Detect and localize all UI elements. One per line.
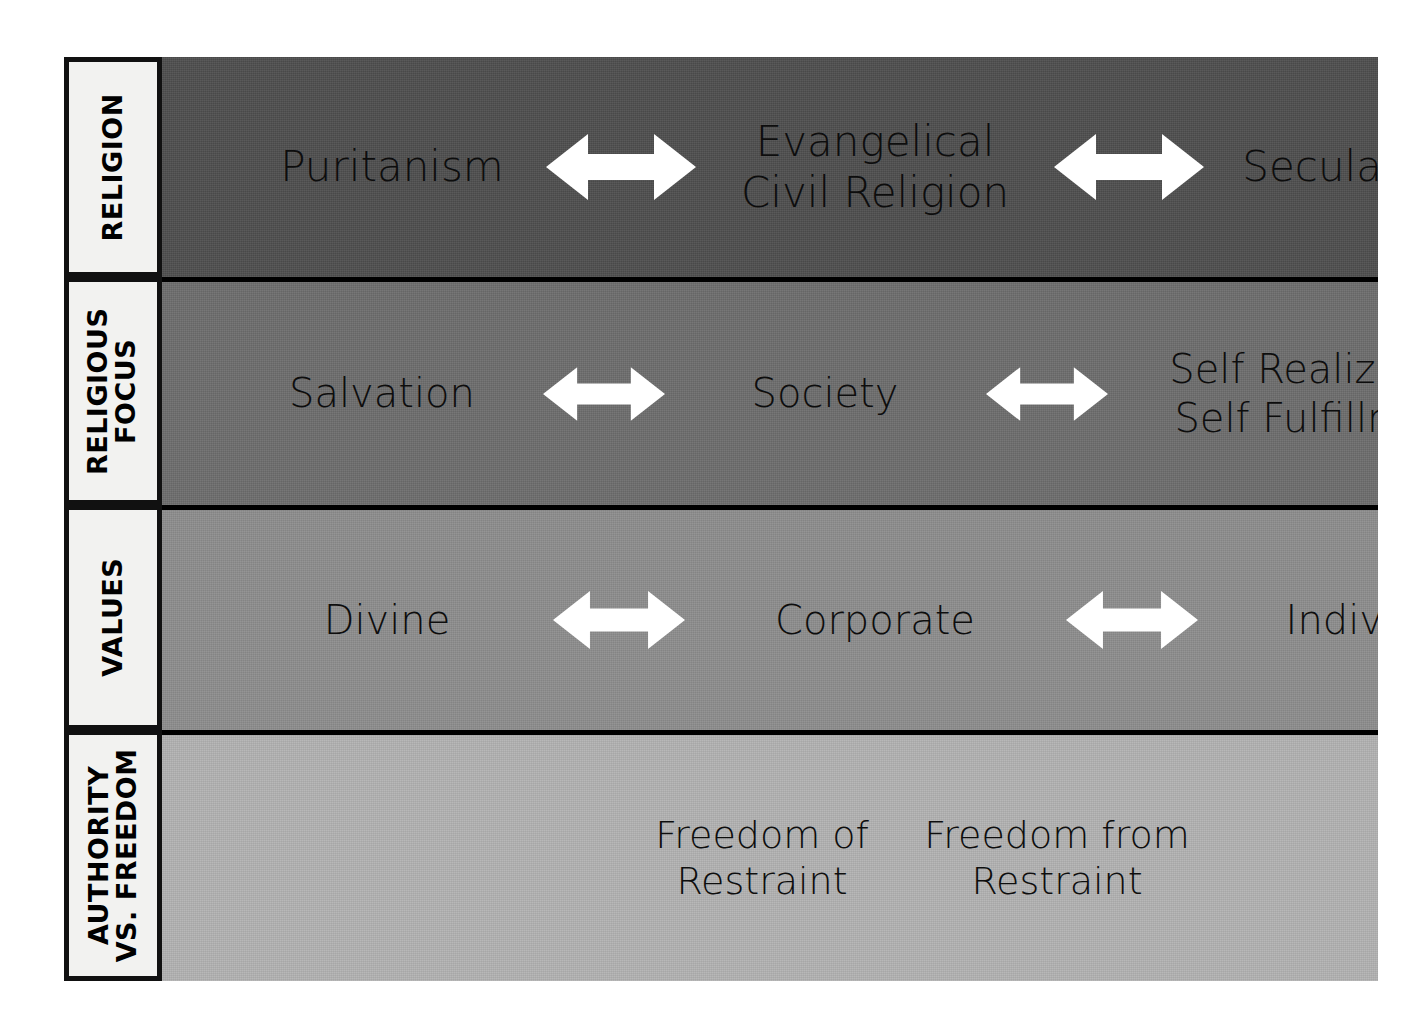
diagram-row-values: VALUES Divine Corporate bbox=[64, 510, 1378, 735]
row-label-values: VALUES bbox=[99, 558, 128, 677]
node-corporate: Corporate bbox=[750, 596, 1000, 645]
row-label-religion: RELIGION bbox=[99, 93, 128, 241]
row-label-line-1: AUTHORITY bbox=[85, 749, 113, 963]
row-label-cell-religion: RELIGION bbox=[64, 57, 162, 277]
row-label-line-2: VS. FREEDOM bbox=[113, 749, 141, 963]
node-secularism: Secularism bbox=[1233, 141, 1378, 192]
node-freedom-of-restraint: Freedom of Restraint bbox=[617, 812, 907, 905]
double-headed-arrow-icon bbox=[546, 130, 696, 204]
diagram-canvas: RELIGION Puritanism Evangelical Civil Re… bbox=[0, 0, 1422, 1015]
node-salvation: Salvation bbox=[272, 369, 492, 418]
arrow-slot-values-1 bbox=[553, 587, 685, 653]
arrow-slot-religion-1 bbox=[546, 130, 696, 204]
row-label-cell-authority-vs-freedom: AUTHORITY VS. FREEDOM bbox=[64, 730, 162, 981]
row-label-authority-vs-freedom: AUTHORITY VS. FREEDOM bbox=[85, 749, 142, 963]
arrow-slot-values-2 bbox=[1066, 587, 1198, 653]
row-label-cell-religious-focus: RELIGIOUS FOCUS bbox=[64, 277, 162, 505]
arrow-slot-religious-focus-1 bbox=[543, 363, 665, 425]
arrow-slot-religious-focus-2 bbox=[986, 363, 1108, 425]
diagram-row-religion: RELIGION Puritanism Evangelical Civil Re… bbox=[64, 57, 1378, 282]
double-headed-arrow-icon bbox=[1054, 130, 1204, 204]
node-self-realization-self-fulfillment: Self Realization Self Fulfillment bbox=[1158, 345, 1378, 443]
row-label-line-1: RELIGIOUS bbox=[85, 307, 113, 475]
row-band-religion: Puritanism Evangelical Civil Religion bbox=[162, 57, 1378, 277]
double-headed-arrow-icon bbox=[986, 363, 1108, 425]
row-band-authority-vs-freedom: Freedom of Restraint Freedom from Restra… bbox=[162, 735, 1378, 981]
arrow-slot-religion-2 bbox=[1054, 130, 1204, 204]
node-divine: Divine bbox=[287, 596, 487, 645]
node-individual: Individual bbox=[1263, 596, 1378, 645]
double-headed-arrow-icon bbox=[1066, 587, 1198, 653]
double-headed-arrow-icon bbox=[543, 363, 665, 425]
row-label-cell-values: VALUES bbox=[64, 505, 162, 730]
node-puritanism: Puritanism bbox=[267, 141, 517, 192]
node-evangelical-civil-religion: Evangelical Civil Religion bbox=[725, 116, 1025, 218]
diagram-row-religious-focus: RELIGIOUS FOCUS Salvation Society bbox=[64, 282, 1378, 510]
row-band-religious-focus: Salvation Society bbox=[162, 282, 1378, 505]
node-society: Society bbox=[715, 369, 935, 418]
diagram-row-authority-vs-freedom: AUTHORITY VS. FREEDOM Freedom of Restrai… bbox=[64, 735, 1378, 981]
node-freedom-from-restraint: Freedom from Restraint bbox=[907, 812, 1207, 905]
row-band-values: Divine Corporate bbox=[162, 510, 1378, 730]
religion-spectrum-diagram: RELIGION Puritanism Evangelical Civil Re… bbox=[64, 57, 1378, 981]
double-headed-arrow-icon bbox=[553, 587, 685, 653]
row-label-religious-focus: RELIGIOUS FOCUS bbox=[85, 307, 142, 475]
row-label-line-2: FOCUS bbox=[113, 307, 141, 475]
